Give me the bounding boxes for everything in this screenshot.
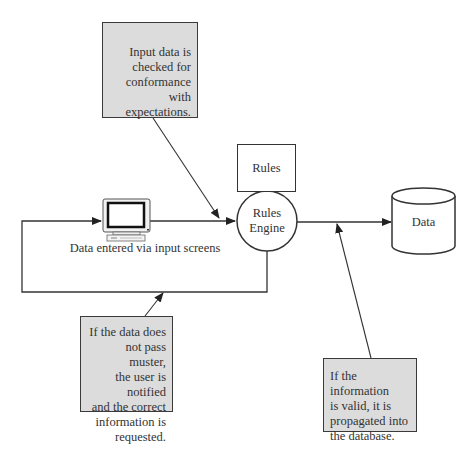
callout-line: is valid, it is	[330, 399, 410, 414]
callout-line: Input data is	[109, 45, 191, 60]
rules-node: Rules	[237, 144, 296, 192]
callout-line: information is	[87, 415, 166, 430]
callout-line: and the correct	[87, 400, 166, 415]
callout-validation-check: Input data is checked for conformance wi…	[102, 22, 198, 118]
callout-line: checked for	[109, 60, 191, 75]
callout-user-notified: If the data does not pass muster, the us…	[80, 316, 173, 412]
callout-line: expectations.	[109, 105, 191, 120]
callout-line: not pass muster,	[87, 340, 166, 370]
callout-line: propagated into	[330, 414, 410, 429]
callout-propagated-to-database: If the information is valid, it is propa…	[323, 358, 417, 432]
rules-engine-label-line2: Engine	[237, 221, 297, 236]
callout-line: the database.	[330, 429, 410, 444]
database-label: Data	[392, 215, 455, 230]
callout-arrow-bottom-right	[337, 224, 371, 358]
callout-line: conformance with	[109, 75, 191, 105]
computer-monitor-icon	[103, 199, 150, 241]
callout-line: requested.	[87, 430, 166, 445]
callout-arrow-bottom-left	[145, 293, 163, 316]
rules-engine-label-line1: Rules	[237, 206, 297, 221]
callout-line: If the data does	[87, 325, 166, 340]
callout-line: the user is notified	[87, 370, 166, 400]
callout-line: If the information	[330, 369, 410, 399]
input-screens-label: Data entered via input screens	[60, 241, 230, 256]
rules-label: Rules	[252, 161, 280, 176]
rules-engine-label: Rules Engine	[237, 206, 297, 236]
callout-arrow-top	[153, 118, 219, 218]
